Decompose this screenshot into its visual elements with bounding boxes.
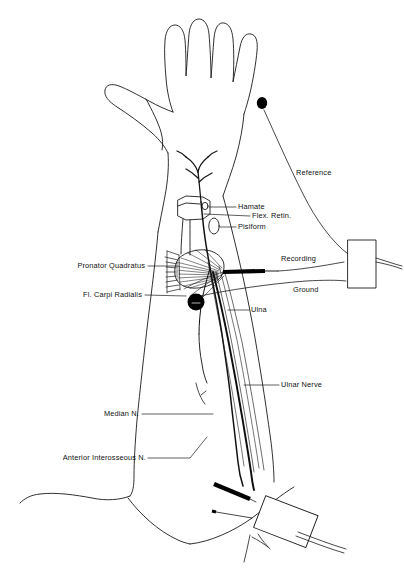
median-nerve-palmar-branches <box>177 151 217 202</box>
hamate-hook <box>202 202 208 209</box>
label-fl-carpi-radialis: Fl. Carpi Radialis <box>83 291 142 298</box>
reference-electrode-dot <box>257 97 267 109</box>
median-nerve-trunk <box>201 202 243 486</box>
ulnar-nerve <box>213 272 254 490</box>
reference-lead-wire <box>264 110 348 254</box>
aio-tick-upper <box>196 383 205 404</box>
diagram-canvas <box>0 0 404 575</box>
label-pisiform: Pisiform <box>238 223 266 230</box>
pisiform-bone <box>209 218 219 234</box>
stimulator-anode-prong <box>212 511 216 512</box>
anatomical-figure: Hamate Flex. Retin. Pisiform Pronator Qu… <box>0 0 404 575</box>
stimulator-cathode-shaft <box>250 499 256 502</box>
forearm-inner-lower-contour <box>128 498 190 544</box>
recording-needle-electrode <box>223 271 265 272</box>
flexor-carpi-radialis-cross-section <box>188 294 205 311</box>
radius-shaft-left <box>181 219 183 254</box>
label-ulnar-nerve: Ulnar Nerve <box>281 381 322 388</box>
label-pronator-quadratus: Pronator Quadratus <box>77 262 145 269</box>
flexor-retinaculum-hatching <box>165 251 180 293</box>
label-reference: Reference <box>296 169 331 176</box>
label-median-n: Median N. <box>104 410 139 417</box>
recording-lead-wire <box>278 262 344 271</box>
stimulator-box <box>254 496 318 548</box>
hand-radial-border <box>158 153 168 232</box>
flexor-tendon-line-b <box>219 266 259 468</box>
label-ulna: Ulna <box>251 306 267 313</box>
hand-ulnar-border <box>223 114 244 196</box>
ulna-bone-medial <box>224 270 264 470</box>
stimulator-cathode-prong <box>214 484 250 499</box>
carpal-bone-hamate <box>178 196 210 220</box>
forearm-lower-sweep <box>20 493 130 503</box>
label-hamate: Hamate <box>238 203 265 210</box>
label-flex-retin: Flex. Retin. <box>252 212 291 219</box>
carpal-bone-inner-line <box>178 203 200 206</box>
amplifier-output-wire-b <box>376 262 402 269</box>
label-leader-lines <box>142 207 279 458</box>
aio-tick-lower <box>201 391 206 395</box>
ground-lead-wire <box>200 280 346 296</box>
label-anterior-interosseous-n: Anterior Interosseous N. <box>63 454 146 461</box>
hand-outline <box>165 19 258 114</box>
stimulator-strap-a <box>244 535 250 562</box>
amplifier-box <box>348 240 376 288</box>
label-ground: Ground <box>293 286 319 293</box>
label-recording: Recording <box>281 255 316 262</box>
stimulator-strap-c <box>252 537 268 547</box>
anterior-interosseous-nerve-lower <box>199 334 207 383</box>
stimulator-anode-shaft <box>216 512 252 518</box>
